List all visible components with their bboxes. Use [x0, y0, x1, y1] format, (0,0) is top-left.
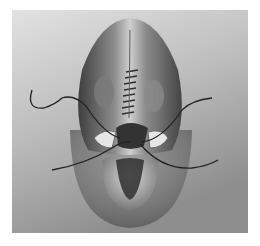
right-lobe	[144, 80, 164, 112]
illustration-canvas	[12, 10, 248, 233]
knot-cluster	[116, 123, 148, 149]
left-lobe	[94, 76, 114, 108]
surgical-illustration	[12, 10, 248, 233]
